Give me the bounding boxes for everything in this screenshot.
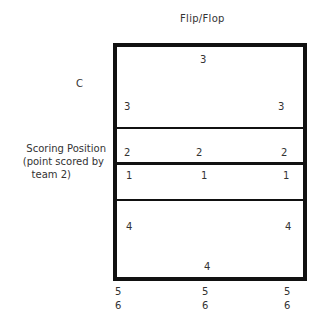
scoring-position-note: Scoring Position (point scored by team 2… <box>0 142 108 181</box>
position-row1-center: 1 <box>201 170 208 182</box>
position-row1-right: 1 <box>283 170 290 182</box>
left-label-c: C <box>76 78 83 90</box>
note-line-2: (point scored by <box>0 155 108 168</box>
below-right-5: 5 <box>284 286 291 298</box>
diagram-title: Flip/Flop <box>180 13 225 25</box>
below-center-5: 5 <box>202 286 209 298</box>
position-row3-right: 3 <box>278 101 285 113</box>
court-line-lower <box>113 199 307 201</box>
court-line-upper <box>113 127 307 129</box>
court-center-line <box>113 162 307 165</box>
position-row2-left: 2 <box>124 147 131 159</box>
position-row3-left: 3 <box>124 101 131 113</box>
note-line-1: Scoring Position <box>0 142 108 155</box>
position-row1-left: 1 <box>126 170 133 182</box>
below-center-6: 6 <box>202 300 209 312</box>
position-row4-right: 4 <box>285 221 292 233</box>
position-row2-right: 2 <box>281 147 288 159</box>
below-left-5: 5 <box>115 286 122 298</box>
below-right-6: 6 <box>284 300 291 312</box>
note-line-3: team 2) <box>0 168 108 181</box>
position-bottom-center: 4 <box>204 261 211 273</box>
position-top-center: 3 <box>200 54 207 66</box>
position-row4-left: 4 <box>126 221 133 233</box>
below-left-6: 6 <box>115 300 122 312</box>
position-row2-center: 2 <box>196 147 203 159</box>
